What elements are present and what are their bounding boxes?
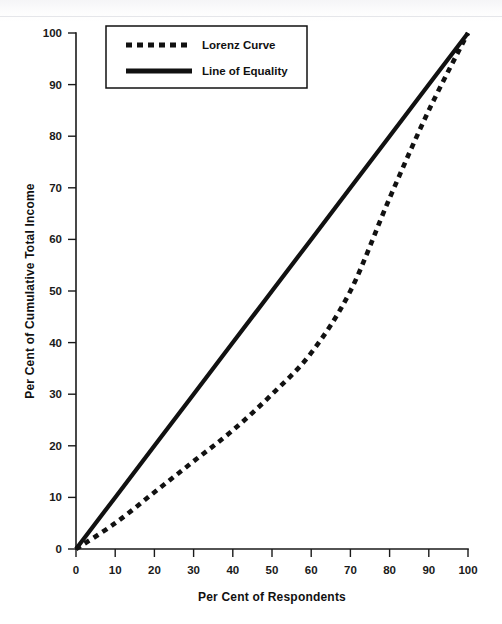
y-tick-label: 80 xyxy=(49,130,62,142)
x-tick-label: 70 xyxy=(344,564,357,576)
lorenz-curve-figure: 100 90 80 70 60 50 40 30 20 10 0 xyxy=(0,0,502,624)
x-tick-label: 40 xyxy=(226,564,239,576)
y-tick-label: 70 xyxy=(49,182,62,194)
y-tick-label: 10 xyxy=(49,491,62,503)
chart-canvas: 100 90 80 70 60 50 40 30 20 10 0 xyxy=(0,0,502,624)
y-tick-label: 0 xyxy=(56,543,62,555)
y-tick-label: 90 xyxy=(49,79,62,91)
x-tick-label: 30 xyxy=(187,564,200,576)
x-tick-label: 50 xyxy=(266,564,279,576)
legend-label-line-of-equality: Line of Equality xyxy=(202,65,288,77)
y-tick-label: 40 xyxy=(49,337,62,349)
x-tick-label: 80 xyxy=(383,564,396,576)
x-tick-label: 10 xyxy=(109,564,122,576)
x-axis-tick-labels: 0 10 20 30 40 50 60 70 80 90 100 xyxy=(73,564,478,576)
x-tick-label: 60 xyxy=(305,564,318,576)
x-tick-label: 90 xyxy=(422,564,435,576)
x-tick-label: 100 xyxy=(458,564,477,576)
x-axis-title: Per Cent of Respondents xyxy=(198,590,346,604)
y-tick-label: 30 xyxy=(49,388,62,400)
legend-box xyxy=(106,26,307,88)
y-tick-label: 20 xyxy=(49,440,62,452)
x-tick-label: 0 xyxy=(73,564,79,576)
y-axis-title: Per Cent of Cumulative Total Income xyxy=(23,183,37,399)
chart-legend: Lorenz Curve Line of Equality xyxy=(106,26,307,88)
x-axis-ticks xyxy=(76,549,468,557)
y-tick-label: 50 xyxy=(49,285,62,297)
y-axis-tick-labels: 100 90 80 70 60 50 40 30 20 10 0 xyxy=(43,27,62,555)
legend-label-lorenz-curve: Lorenz Curve xyxy=(202,39,276,51)
x-tick-label: 20 xyxy=(148,564,161,576)
y-axis-ticks xyxy=(68,33,76,549)
y-tick-label: 100 xyxy=(43,27,62,39)
y-tick-label: 60 xyxy=(49,233,62,245)
line-of-equality-series xyxy=(76,33,468,549)
